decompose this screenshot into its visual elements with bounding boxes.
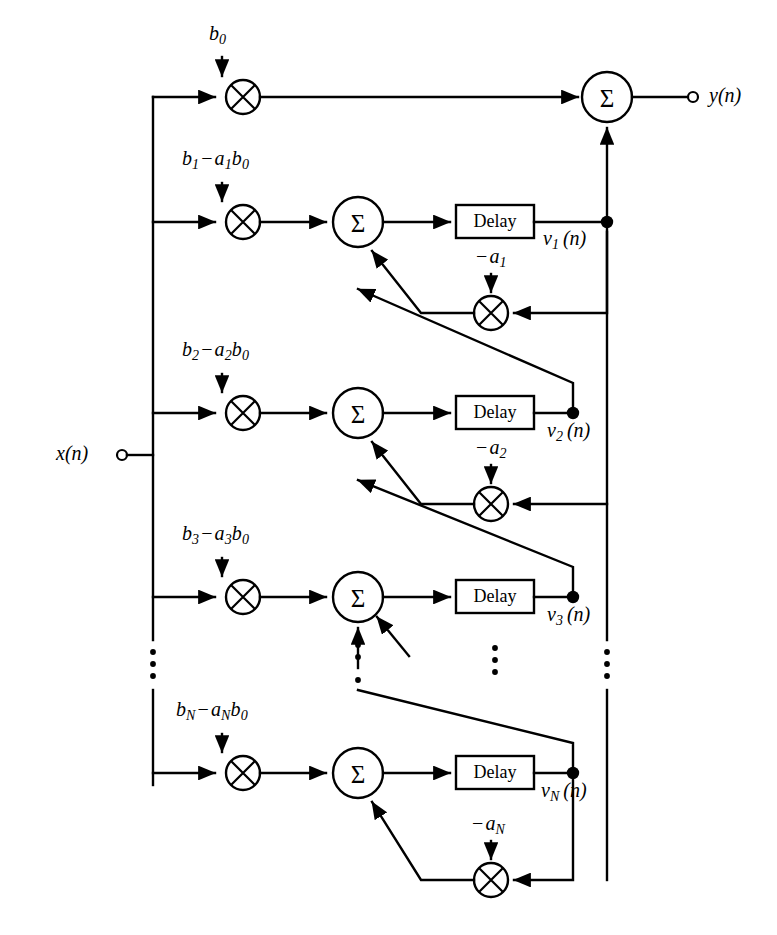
coefficient-label-rowN: bN−aNb0 (176, 699, 248, 723)
junction-dot-vN (567, 767, 579, 779)
diagram-canvas: Σ Σ (0, 0, 777, 935)
state-label-vN: vN (n) (541, 780, 587, 804)
feedback-coefficient-label-1: −a1 (474, 246, 507, 270)
coefficient-label-row3: b3−a3b0 (182, 523, 249, 547)
summer-output-sigma: Σ (600, 85, 615, 112)
feedback-coefficient-label-N: −aN (470, 813, 505, 837)
ellipsis-feedback-bus (604, 649, 610, 679)
v3-to-summer2-diagonal (358, 480, 573, 591)
ellipsis-dot (604, 673, 610, 679)
summer-row3-sigma: Σ (351, 585, 366, 612)
summer3-diagonal-input-arrow (377, 617, 409, 656)
delay-block-label-N: Delay (456, 762, 534, 783)
output-open-terminal (688, 92, 698, 102)
state-label-v2: v2 (n) (547, 420, 590, 444)
feedback2-to-summer2-wire (372, 442, 474, 504)
junction-dot-v3 (567, 591, 579, 603)
ellipsis-dot (355, 654, 361, 660)
ellipsis-dot (492, 657, 498, 663)
coefficient-label-row2: b2−a2b0 (182, 339, 249, 363)
input-terminal-group (117, 450, 153, 460)
ellipsis-dot (150, 673, 156, 679)
feedbackN-to-summerN-wire (372, 802, 474, 880)
summer-row2-sigma: Σ (351, 401, 366, 428)
state-label-v1: v1 (n) (543, 228, 586, 252)
input-label: x(n) (56, 443, 88, 463)
ellipsis-delay-column (492, 645, 498, 675)
junction-dot-v2 (567, 407, 579, 419)
coefficient-label-row1: b1−a1b0 (182, 148, 249, 172)
ellipsis-dot (492, 645, 498, 651)
summer-row1-sigma: Σ (351, 210, 366, 237)
delay-block-label-3: Delay (456, 586, 534, 607)
input-open-terminal (117, 450, 127, 460)
ellipsis-dot (150, 661, 156, 667)
ellipsis-dot (355, 677, 361, 683)
ellipsis-dot (604, 661, 610, 667)
signal-flow-graph: Σ Σ (0, 0, 777, 935)
v2-to-summer1-diagonal (358, 289, 573, 407)
ellipsis-input-bus (150, 649, 156, 679)
row-b0 (153, 57, 578, 114)
delay-block-label-1: Delay (456, 211, 534, 232)
feedback-coefficient-label-2: −a2 (474, 437, 507, 461)
coefficient-label-b0: b0 (209, 23, 226, 47)
delay-block-label-2: Delay (456, 402, 534, 423)
state-label-v3: v3 (n) (547, 604, 590, 628)
row-3: Σ (153, 480, 579, 668)
output-summer-group: Σ (582, 72, 698, 226)
ellipsis-dot (492, 669, 498, 675)
summer-rowN-sigma: Σ (351, 761, 366, 788)
ellipsis-dot (355, 642, 361, 648)
ellipsis-dot (604, 649, 610, 655)
ellipsis-dot (150, 649, 156, 655)
output-label: y(n) (709, 85, 741, 105)
feedback1-to-summer1-wire (372, 251, 474, 313)
